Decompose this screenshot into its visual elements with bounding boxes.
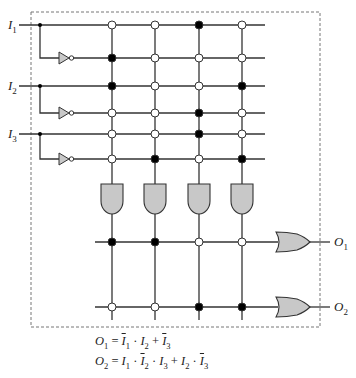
or-gates [276, 232, 310, 317]
output-label-o1: O1 [334, 235, 348, 252]
or-gate-2-icon [276, 297, 310, 317]
connection-dot-filled [238, 155, 246, 163]
connection-dot-filled [238, 82, 246, 90]
connection-dot-open [195, 155, 203, 163]
or-plane-crosspoints [108, 238, 246, 311]
connection-dot-filled [195, 21, 203, 29]
connection-dot-open [238, 21, 246, 29]
output-label-o2: O2 [334, 300, 348, 317]
connection-dot-open [195, 238, 203, 246]
connection-dot-open [108, 21, 116, 29]
and-gate-1-icon [101, 184, 123, 214]
connection-dot-open [195, 54, 203, 62]
and-gate-3-icon [188, 184, 210, 214]
connection-dot-open [151, 82, 159, 90]
input-label-i3: I3 [8, 127, 17, 144]
and-gates [101, 184, 253, 214]
connection-dot-open [151, 130, 159, 138]
pla-circuit-diagram [0, 0, 356, 378]
connection-dot-open [151, 54, 159, 62]
inverter-i3-icon [59, 153, 74, 165]
connection-dot-open [108, 109, 116, 117]
connection-dot-filled [151, 238, 159, 246]
connection-dot-filled [108, 238, 116, 246]
connection-dot-open [238, 109, 246, 117]
equation-o2: O2 = I1 · I2 · I3 + I2 · I3 [95, 354, 208, 371]
connection-dot-open [151, 303, 159, 311]
connection-dot-open [195, 82, 203, 90]
pla-boundary [31, 12, 320, 327]
connection-dot-filled [238, 303, 246, 311]
connection-dot-open [151, 21, 159, 29]
connection-dot-filled [195, 109, 203, 117]
or-gate-1-icon [276, 232, 310, 252]
connection-dot-filled [195, 130, 203, 138]
connection-dot-open [108, 130, 116, 138]
inverters [59, 52, 74, 165]
and-gate-4-icon [231, 184, 253, 214]
equation-o1: O1 = I1 · I2 + I3 [95, 334, 171, 351]
inverter-i1-icon [59, 52, 74, 64]
connection-dot-open [108, 303, 116, 311]
connection-dot-filled [151, 155, 159, 163]
connection-dot-open [238, 238, 246, 246]
connection-dot-open [238, 130, 246, 138]
connection-dot-filled [195, 303, 203, 311]
wires [19, 25, 330, 320]
and-plane-crosspoints [108, 21, 246, 163]
connection-dot-filled [108, 54, 116, 62]
connection-dot-open [108, 155, 116, 163]
and-gate-2-icon [144, 184, 166, 214]
connection-dot-filled [108, 82, 116, 90]
input-label-i2: I2 [8, 79, 17, 96]
inverter-i2-icon [59, 107, 74, 119]
connection-dot-open [238, 54, 246, 62]
connection-dot-open [151, 109, 159, 117]
input-label-i1: I1 [8, 18, 17, 35]
